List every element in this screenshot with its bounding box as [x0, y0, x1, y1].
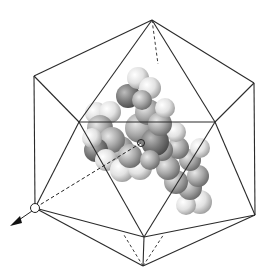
diagram-canvas [0, 0, 266, 276]
molecule-model [82, 67, 212, 215]
axis-vertex-marker [31, 204, 40, 213]
arrowhead-icon [10, 216, 22, 226]
icosahedron-molecule-figure [0, 0, 266, 276]
